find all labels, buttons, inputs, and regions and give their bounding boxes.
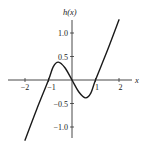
plot-svg: −2−112 x 1.00.5−0.5−1.0 h(x) <box>0 0 150 144</box>
function-plot: −2−112 x 1.00.5−0.5−1.0 h(x) <box>0 0 150 144</box>
x-axis-label: x <box>134 75 139 85</box>
y-axis-label: h(x) <box>63 7 77 17</box>
y-tick-label: 0.5 <box>58 53 68 62</box>
x-tick-label: −1 <box>47 83 56 92</box>
y-axis: 1.00.5−0.5−1.0 h(x) <box>53 7 76 138</box>
y-tick-label: 1.0 <box>58 29 68 38</box>
x-tick-label: −2 <box>21 83 30 92</box>
x-tick-label: 2 <box>119 83 123 92</box>
y-tick-label: −0.5 <box>53 100 68 109</box>
x-tick-label: 1 <box>95 83 99 92</box>
y-tick-label: −1.0 <box>53 123 68 132</box>
